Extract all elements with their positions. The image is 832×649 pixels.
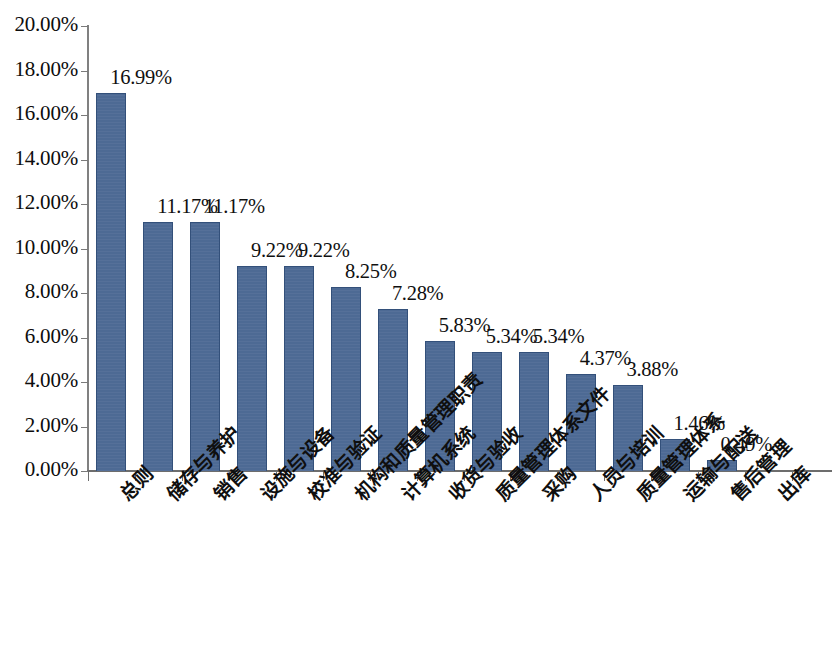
y-axis-tick-mark [81, 249, 88, 250]
bar-value-label: 11.17% [204, 195, 265, 218]
y-axis-tick-label: 6.00% [0, 324, 78, 349]
bar-value-label: 3.88% [627, 358, 678, 381]
bar [143, 222, 173, 471]
y-axis-tick-mark [81, 427, 88, 428]
y-axis-tick-label: 8.00% [0, 279, 78, 304]
bar-value-label: 9.22% [298, 239, 349, 262]
bar-value-label: 0.49% [720, 433, 771, 456]
bar-value-label: 4.37% [580, 347, 631, 370]
x-axis-tick-mark [88, 472, 89, 481]
y-axis-tick-label: 14.00% [0, 146, 78, 171]
bar-value-label: 8.25% [345, 260, 396, 283]
y-axis-tick-label: 2.00% [0, 413, 78, 438]
bar-value-label: 1.46% [674, 412, 725, 435]
y-axis-tick-mark [81, 471, 88, 472]
bar-value-label: 5.83% [439, 314, 490, 337]
bar-value-label: 5.34% [486, 325, 537, 348]
bar-value-label: 5.34% [533, 325, 584, 348]
y-axis-tick-mark [81, 160, 88, 161]
bar [96, 93, 126, 471]
y-axis-tick-mark [81, 382, 88, 383]
y-axis-tick-label: 18.00% [0, 57, 78, 82]
y-axis-tick-label: 20.00% [0, 12, 78, 37]
bar-value-label: 9.22% [251, 239, 302, 262]
y-axis-tick-label: 4.00% [0, 368, 78, 393]
y-axis-tick-mark [81, 293, 88, 294]
y-axis-tick-label: 10.00% [0, 235, 78, 260]
y-axis-tick-mark [81, 71, 88, 72]
bar-value-label: 16.99% [110, 66, 171, 89]
y-axis-tick-label: 12.00% [0, 190, 78, 215]
y-axis-tick-mark [81, 204, 88, 205]
y-axis-tick-mark [81, 338, 88, 339]
bar-chart: 0.00%2.00%4.00%6.00%8.00%10.00%12.00%14.… [0, 0, 832, 649]
bar-value-label: 7.28% [392, 282, 443, 305]
y-axis-tick-mark [81, 115, 88, 116]
y-axis-tick-label: 0.00% [0, 457, 78, 482]
y-axis-tick-label: 16.00% [0, 101, 78, 126]
y-axis-tick-mark [81, 26, 88, 27]
